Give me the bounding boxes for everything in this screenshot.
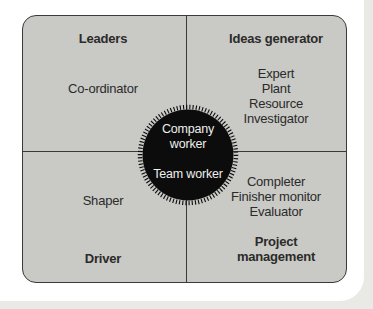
role-expert: Expert	[201, 66, 351, 81]
label-company-worker: Company worker	[149, 122, 227, 152]
label-team-worker: Team worker	[153, 167, 222, 182]
quadrant-title-project-management-text: Project management	[232, 234, 320, 264]
quadrant-title-leaders: Leaders	[23, 31, 183, 46]
center-circle: Company worker Team worker	[136, 103, 240, 207]
role-coordinator: Co-ordinator	[23, 81, 183, 96]
team-roles-quadrant-card: Leaders Co-ordinator Ideas generator Exp…	[22, 15, 347, 283]
quadrant-title-driver: Driver	[23, 251, 183, 266]
center-circle-labels: Company worker Team worker	[136, 103, 240, 207]
quadrant-title-project-management: Project management	[201, 234, 351, 264]
diagram-stage: Leaders Co-ordinator Ideas generator Exp…	[0, 0, 373, 309]
quadrant-title-ideas-generator: Ideas generator	[201, 31, 351, 46]
role-plant: Plant	[201, 81, 351, 96]
